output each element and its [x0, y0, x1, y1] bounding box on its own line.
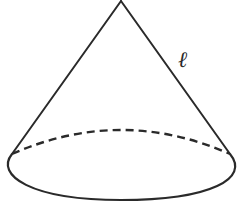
base-front-arc [8, 154, 235, 200]
right-slant-edge [121, 1, 230, 154]
cone-figure [0, 0, 246, 211]
slant-height-label: ℓ [178, 49, 187, 71]
base-back-arc-dashed [12, 130, 230, 154]
